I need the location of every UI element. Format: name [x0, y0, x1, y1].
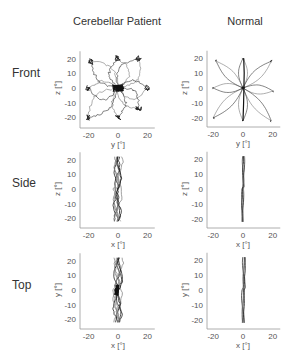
y-tick-label: -20 [64, 315, 76, 324]
y-tick-label: 10 [194, 69, 203, 78]
y-tick-label: 20 [67, 156, 76, 165]
y-tick-label: -20 [191, 114, 203, 123]
y-tick-label: -10 [191, 99, 203, 108]
y-axis-label: z [°] [53, 81, 62, 95]
x-axis-label: x [°] [236, 341, 250, 350]
figure-canvas: 20100-10-20-20020y [°]z [°]20100-10-20-2… [0, 0, 294, 362]
y-tick-label: -20 [191, 316, 203, 325]
x-tick-label: -20 [207, 130, 219, 139]
x-axis-label: x [°] [111, 341, 125, 350]
x-tick-label: 0 [116, 332, 121, 341]
x-tick-label: -20 [207, 231, 219, 240]
x-tick-label: -20 [207, 332, 219, 341]
y-axis-label: y [°] [180, 283, 189, 297]
y-axis-label: z [°] [53, 182, 62, 196]
x-axis-label: y [°] [111, 140, 125, 149]
traces [213, 58, 274, 122]
x-tick-label: 20 [143, 332, 152, 341]
panel-front-patient: 20100-10-20-20020y [°]z [°] [53, 51, 155, 149]
x-tick-label: 0 [241, 130, 246, 139]
traces [242, 257, 246, 323]
y-axis-label: z [°] [180, 81, 189, 95]
y-tick-label: -10 [191, 200, 203, 209]
x-axis-label: x [°] [111, 240, 125, 249]
x-tick-label: -20 [83, 231, 95, 240]
y-tick-label: -20 [64, 113, 76, 122]
y-tick-label: 20 [194, 256, 203, 265]
traces [242, 156, 245, 222]
panel-front-normal: 20100-10-20-20020y [°]z [°] [180, 51, 280, 148]
x-axis-label: x [°] [236, 240, 250, 249]
x-tick-label: -20 [83, 332, 95, 341]
x-tick-label: 0 [116, 131, 121, 140]
x-tick-label: 0 [116, 231, 121, 240]
y-tick-label: 10 [67, 69, 76, 78]
x-axis-label: y [°] [236, 139, 250, 148]
traces [113, 258, 124, 323]
y-tick-label: -20 [64, 214, 76, 223]
y-tick-label: 0 [199, 185, 204, 194]
y-tick-label: 10 [67, 170, 76, 179]
y-tick-label: -10 [64, 99, 76, 108]
x-tick-label: 20 [268, 332, 277, 341]
y-tick-label: 0 [72, 185, 77, 194]
x-tick-label: 20 [268, 130, 277, 139]
traces [113, 157, 123, 222]
y-tick-label: 0 [199, 84, 204, 93]
y-tick-label: 10 [67, 271, 76, 280]
x-tick-label: -20 [83, 131, 95, 140]
y-tick-label: -20 [191, 215, 203, 224]
y-tick-label: 0 [72, 286, 77, 295]
panel-top-patient: 20100-10-20-20020x [°]y [°] [53, 253, 155, 350]
x-tick-label: 20 [143, 231, 152, 240]
y-tick-label: 0 [72, 84, 77, 93]
y-tick-label: 20 [194, 155, 203, 164]
y-tick-label: 0 [199, 286, 204, 295]
x-tick-label: 0 [241, 231, 246, 240]
panel-side-patient: 20100-10-20-20020x [°]z [°] [53, 152, 155, 249]
y-tick-label: 20 [67, 257, 76, 266]
x-tick-label: 0 [241, 332, 246, 341]
x-tick-label: 20 [143, 131, 152, 140]
y-tick-label: -10 [64, 200, 76, 209]
y-tick-label: -10 [191, 301, 203, 310]
y-tick-label: -10 [64, 301, 76, 310]
y-axis-label: y [°] [53, 283, 62, 297]
panel-top-normal: 20100-10-20-20020x [°]y [°] [180, 253, 280, 350]
y-axis-label: z [°] [180, 182, 189, 196]
panel-side-normal: 20100-10-20-20020x [°]z [°] [180, 152, 280, 249]
y-tick-label: 10 [194, 170, 203, 179]
x-tick-label: 20 [268, 231, 277, 240]
traces [86, 56, 150, 121]
y-tick-label: 20 [194, 54, 203, 63]
y-tick-label: 20 [67, 55, 76, 64]
y-tick-label: 10 [194, 271, 203, 280]
